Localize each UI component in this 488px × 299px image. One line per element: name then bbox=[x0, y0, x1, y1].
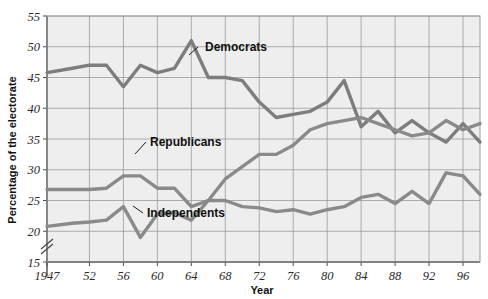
y-tick-label: 45 bbox=[28, 71, 41, 85]
x-tick-label: 80 bbox=[321, 269, 334, 283]
x-tick-label: 56 bbox=[117, 269, 130, 283]
y-tick-label: 30 bbox=[27, 163, 41, 177]
series-label-republicans: Republicans bbox=[150, 135, 222, 149]
y-tick-label: 20 bbox=[28, 225, 41, 239]
series-label-democrats: Democrats bbox=[205, 40, 267, 54]
x-tick-label: 64 bbox=[185, 269, 198, 283]
line-chart: 555045403530252015 194752566064687276808… bbox=[0, 0, 488, 299]
chart-figure: 555045403530252015 194752566064687276808… bbox=[0, 0, 488, 299]
x-tick-label: 76 bbox=[287, 269, 300, 283]
x-axis-label: Year bbox=[250, 284, 274, 296]
x-tick-label: 96 bbox=[457, 269, 470, 283]
x-tick-label: 88 bbox=[389, 269, 402, 283]
series-label-independents: Independents bbox=[147, 206, 225, 220]
x-tick-label: 72 bbox=[253, 269, 266, 283]
y-tick-label: 55 bbox=[28, 10, 41, 24]
x-tick-label: 68 bbox=[219, 269, 232, 283]
x-tick-label: 52 bbox=[83, 269, 96, 283]
y-tick-label: 40 bbox=[28, 102, 41, 116]
y-axis-label: Percentage of the electorate bbox=[6, 76, 18, 223]
y-tick-label: 25 bbox=[28, 194, 41, 208]
y-tick-label: 15 bbox=[28, 256, 41, 270]
y-tick-label: 35 bbox=[27, 133, 41, 147]
x-tick-label: 92 bbox=[423, 269, 436, 283]
x-tick-label: 60 bbox=[151, 269, 164, 283]
x-tick-label: 84 bbox=[355, 269, 368, 283]
y-tick-label: 50 bbox=[28, 40, 41, 54]
